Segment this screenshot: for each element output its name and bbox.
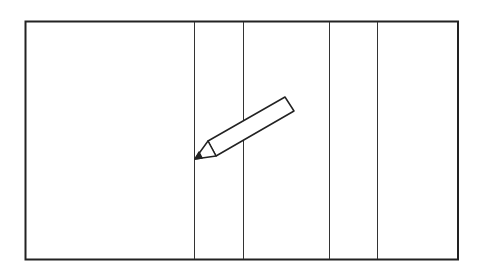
diagram-canvas	[0, 0, 478, 277]
